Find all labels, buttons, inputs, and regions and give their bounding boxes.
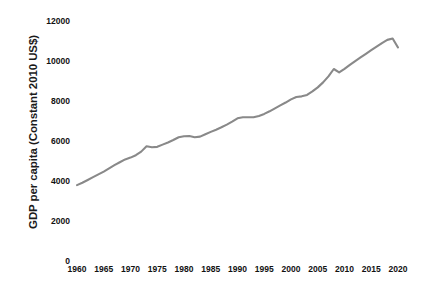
line-chart-svg	[0, 0, 426, 289]
x-axis-tick-labels: 1960196519701975198019851990199520002005…	[0, 264, 426, 280]
x-tick-label-2020: 2020	[380, 264, 416, 274]
plot-area	[0, 0, 426, 289]
data-series-line-gdp-per-capita	[77, 38, 398, 185]
chart-container: GDP per capita (Constant 2010 US$) 02000…	[0, 0, 426, 289]
